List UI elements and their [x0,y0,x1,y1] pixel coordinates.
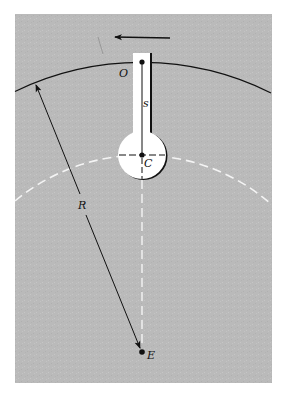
rotation-arrow-icon [115,37,170,38]
point-O [139,59,144,64]
label-R: R [77,199,86,212]
label-O: O [119,67,128,80]
geometry-diagram: O s C R E [0,0,283,396]
label-E: E [146,349,155,362]
label-s: s [143,97,149,110]
point-E [139,349,145,355]
label-C: C [144,157,153,170]
